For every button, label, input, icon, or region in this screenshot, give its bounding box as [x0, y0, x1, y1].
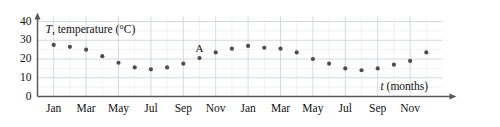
point-label-a: A [196, 43, 204, 54]
data-point [246, 44, 250, 48]
data-point [84, 48, 88, 52]
data-point [343, 66, 347, 70]
data-point [392, 63, 396, 67]
y-axis-tick-label: 20 [0, 53, 32, 65]
x-axis-tick-label: Nov [206, 103, 226, 115]
data-point [52, 43, 56, 47]
y-axis-tick-label: 0 [0, 91, 32, 103]
x-axis-title: t (months) [381, 81, 429, 93]
data-point [311, 57, 315, 61]
x-axis-tick-label: Jan [240, 103, 255, 115]
y-axis-tick-label: 30 [0, 35, 32, 47]
x-axis-tick-label: May [302, 103, 323, 115]
x-axis-tick-label: Sep [369, 103, 386, 115]
data-point-group [52, 43, 429, 73]
data-point [408, 59, 412, 63]
x-axis-tick-label: Mar [77, 103, 96, 115]
data-point [278, 47, 282, 51]
temperature-scatter-chart: 010203040 JanMarMayJulSepNovJanMarMayJul… [0, 0, 500, 127]
data-point [133, 65, 137, 69]
x-axis-tick-label: Sep [175, 103, 192, 115]
data-point [149, 67, 153, 71]
y-axis-unit-text: , temperature (°C) [52, 23, 135, 35]
x-axis-tick-label: Jan [46, 103, 61, 115]
x-axis-tick-label: Mar [271, 103, 290, 115]
x-axis-tick-label: May [108, 103, 129, 115]
x-axis-tick-label: Nov [400, 103, 420, 115]
data-point [359, 68, 363, 72]
data-point [165, 65, 169, 69]
data-point [295, 50, 299, 54]
data-point [230, 47, 234, 51]
y-axis-title: T, temperature (°C) [46, 24, 136, 36]
data-point [197, 56, 201, 60]
data-point [68, 45, 72, 49]
x-axis-unit-text: (months) [384, 80, 428, 92]
data-point [181, 62, 185, 66]
data-point [262, 46, 266, 50]
data-point [327, 62, 331, 66]
data-point [214, 50, 218, 54]
data-point [116, 61, 120, 65]
data-point [376, 66, 380, 70]
data-point [100, 54, 104, 58]
data-point [424, 50, 428, 54]
x-axis-tick-label: Jul [339, 103, 352, 115]
y-axis-tick-label: 40 [0, 16, 32, 28]
y-axis-tick-label: 10 [0, 72, 32, 84]
x-axis-tick-label: Jul [144, 103, 157, 115]
